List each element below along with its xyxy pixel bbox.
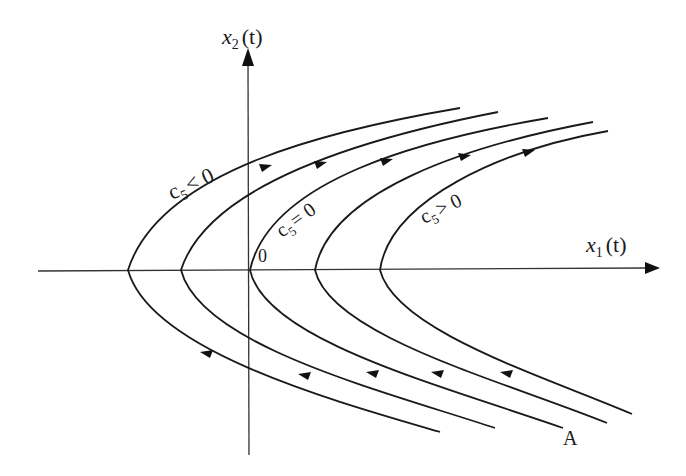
arrow-left-icon xyxy=(500,370,513,378)
y-axis-arrow-icon xyxy=(242,48,254,66)
x-axis xyxy=(38,262,660,274)
origin-label: 0 xyxy=(258,246,267,266)
arrow-right-icon xyxy=(259,164,272,172)
x-axis-arrow-icon xyxy=(645,262,660,274)
label-c5-negative: c5< 0 xyxy=(164,162,219,207)
point-label-a: A xyxy=(563,427,578,449)
trajectory-curve-3 xyxy=(250,118,563,428)
arrow-right-icon xyxy=(522,149,535,157)
arrow-left-icon xyxy=(200,350,213,358)
phase-portrait-figure: x2(t) x1(t) 0 c5< 0 c5= 0 c5> 0 A xyxy=(0,0,686,476)
svg-text:c5< 0: c5< 0 xyxy=(164,162,219,207)
arrow-right-icon xyxy=(380,158,393,166)
arrow-left-icon xyxy=(298,372,311,380)
label-c5-zero: c5= 0 xyxy=(271,198,322,245)
label-c5-positive: c5> 0 xyxy=(416,189,467,232)
svg-text:c5= 0: c5= 0 xyxy=(271,198,322,245)
y-axis xyxy=(242,48,254,455)
trajectory-curve-4 xyxy=(315,122,607,423)
arrow-left-icon xyxy=(366,370,379,378)
x-axis-label: x1(t) xyxy=(585,232,627,260)
arrow-left-icon xyxy=(431,370,444,378)
arrow-right-icon xyxy=(314,161,327,169)
svg-text:c5> 0: c5> 0 xyxy=(416,189,467,232)
arrow-right-icon xyxy=(458,153,471,161)
y-axis-label: x2(t) xyxy=(221,24,263,52)
